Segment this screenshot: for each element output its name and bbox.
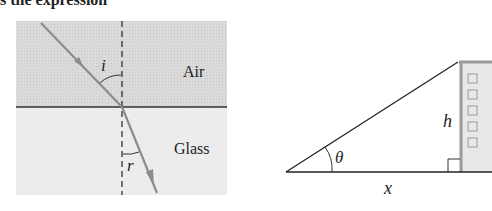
angle-r-label: r <box>127 156 134 175</box>
hypotenuse <box>286 62 458 172</box>
base-label: x <box>383 178 392 198</box>
refraction-diagram: i r Air Glass <box>16 21 227 195</box>
triangle-diagram: θ h x <box>286 62 492 198</box>
glass-label: Glass <box>174 140 210 157</box>
figure-canvas: i r Air Glass θ h x <box>0 0 492 211</box>
height-label: h <box>443 111 452 131</box>
angle-theta-label: θ <box>335 148 343 167</box>
air-label: Air <box>183 63 205 80</box>
right-angle-marker <box>448 159 460 172</box>
angle-i-label: i <box>101 56 106 75</box>
angle-theta-arc <box>325 147 332 172</box>
building <box>460 62 492 172</box>
